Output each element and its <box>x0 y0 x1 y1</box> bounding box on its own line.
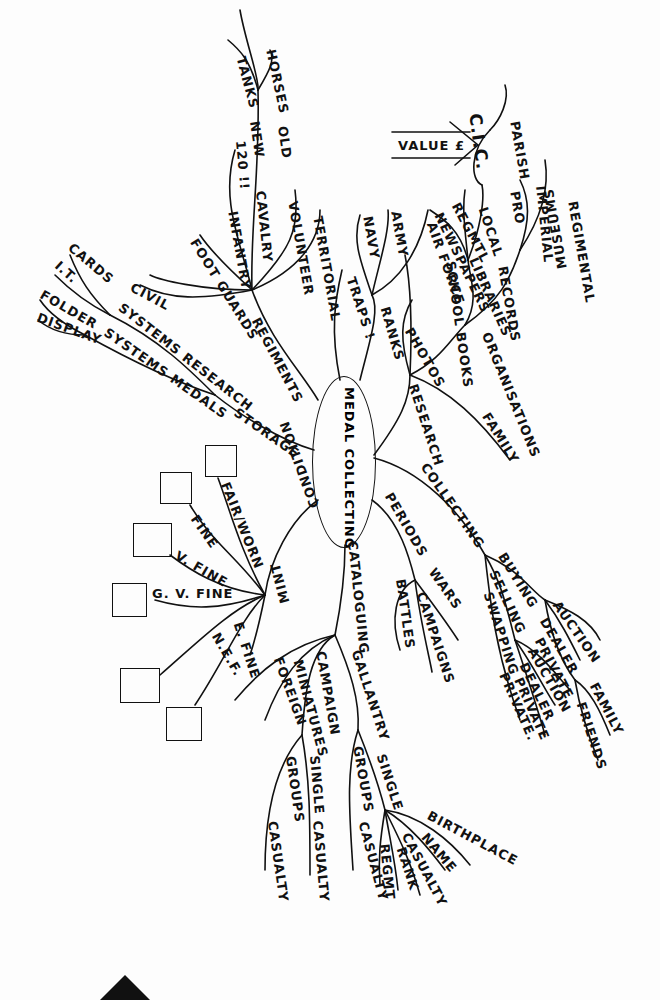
checkbox-gv-fine <box>112 583 147 617</box>
checkbox-nef <box>120 668 160 703</box>
checkbox-fair-worn <box>205 445 237 477</box>
checkbox-fine <box>160 472 192 504</box>
checkbox-v-fine <box>133 523 172 557</box>
central-topic: MEDAL COLLECTING <box>312 376 376 548</box>
corner-triangle-icon <box>100 975 150 1000</box>
node-value: VALUE £ <box>398 138 465 153</box>
central-topic-label: MEDAL COLLECTING <box>342 387 357 549</box>
checkbox-e-fine <box>166 707 202 741</box>
